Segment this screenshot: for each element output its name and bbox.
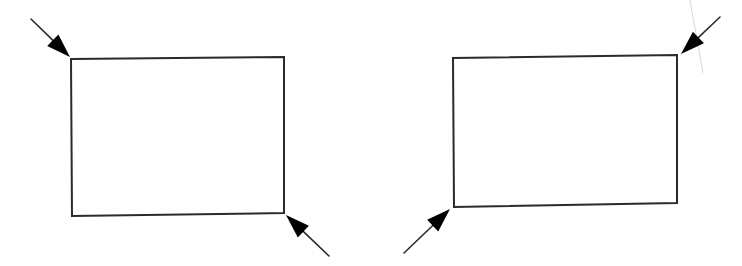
- diagram-canvas: [0, 0, 742, 266]
- arrow-shaft: [31, 19, 54, 42]
- arrow-top-left-icon: [31, 19, 70, 57]
- figure-right: [404, 17, 720, 253]
- figure-left: [31, 19, 329, 256]
- rectangle: [71, 57, 284, 216]
- figures: [31, 17, 720, 256]
- rectangle: [453, 55, 677, 207]
- arrow-bottom-right-icon: [286, 215, 329, 256]
- arrow-top-right-icon: [681, 17, 720, 54]
- arrow-bottom-left-icon: [404, 209, 450, 253]
- arrow-shaft: [302, 230, 329, 256]
- arrow-shaft: [697, 17, 720, 39]
- arrow-shaft: [404, 224, 434, 253]
